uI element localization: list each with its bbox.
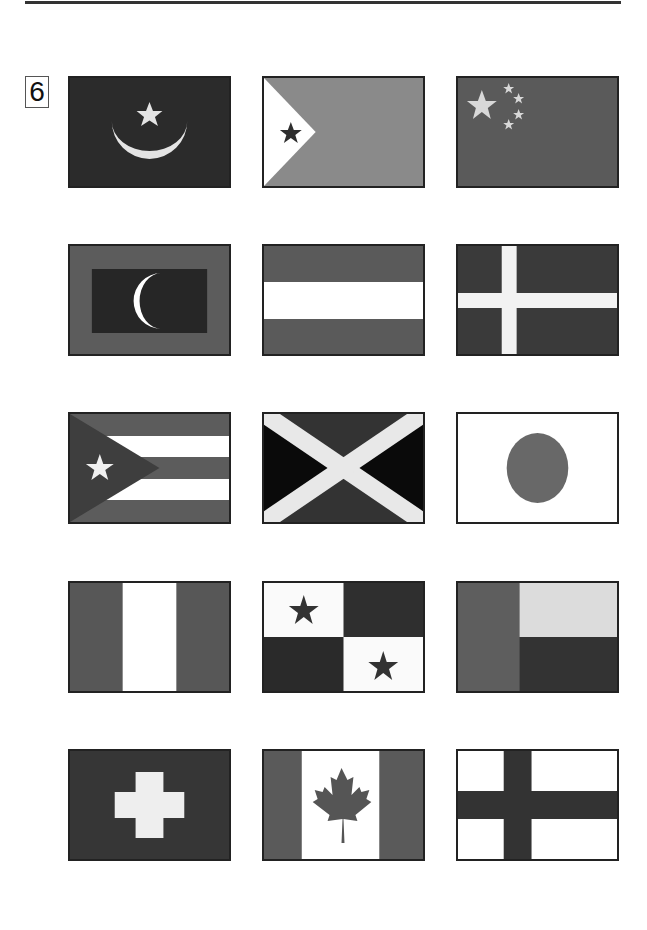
flag-china bbox=[456, 76, 619, 188]
stars-icon bbox=[458, 78, 617, 186]
cross-icon bbox=[70, 751, 229, 859]
top-rule bbox=[25, 1, 621, 4]
flag-cuba bbox=[68, 412, 231, 524]
flag-panama bbox=[262, 581, 425, 693]
flag-nigeria bbox=[68, 581, 231, 693]
triangle-star-icon bbox=[264, 78, 423, 186]
crescent-star-icon bbox=[70, 78, 229, 186]
quartered-stars-icon bbox=[264, 583, 423, 691]
flag-denmark bbox=[456, 244, 619, 356]
maple-leaf-icon bbox=[264, 751, 423, 859]
flag-mauritania bbox=[68, 76, 231, 188]
section-number: 6 bbox=[25, 76, 49, 108]
triband-horizontal-icon bbox=[264, 246, 423, 354]
flag-canada bbox=[262, 749, 425, 861]
flag-japan bbox=[456, 412, 619, 524]
nordic-cross-icon bbox=[458, 246, 617, 354]
flag-jamaica bbox=[262, 412, 425, 524]
flag-finland bbox=[456, 749, 619, 861]
disc-icon bbox=[458, 414, 617, 522]
hoist-bicolor-icon bbox=[458, 583, 617, 691]
stripes-triangle-star-icon bbox=[70, 414, 229, 522]
flag-maldives bbox=[68, 244, 231, 356]
flag-switzerland bbox=[68, 749, 231, 861]
nordic-cross-icon bbox=[458, 751, 617, 859]
flag-djibouti bbox=[262, 76, 425, 188]
triband-vertical-icon bbox=[70, 583, 229, 691]
flag-austria bbox=[262, 244, 425, 356]
saltire-icon bbox=[264, 414, 423, 522]
crescent-icon bbox=[70, 246, 229, 354]
flag-benin bbox=[456, 581, 619, 693]
